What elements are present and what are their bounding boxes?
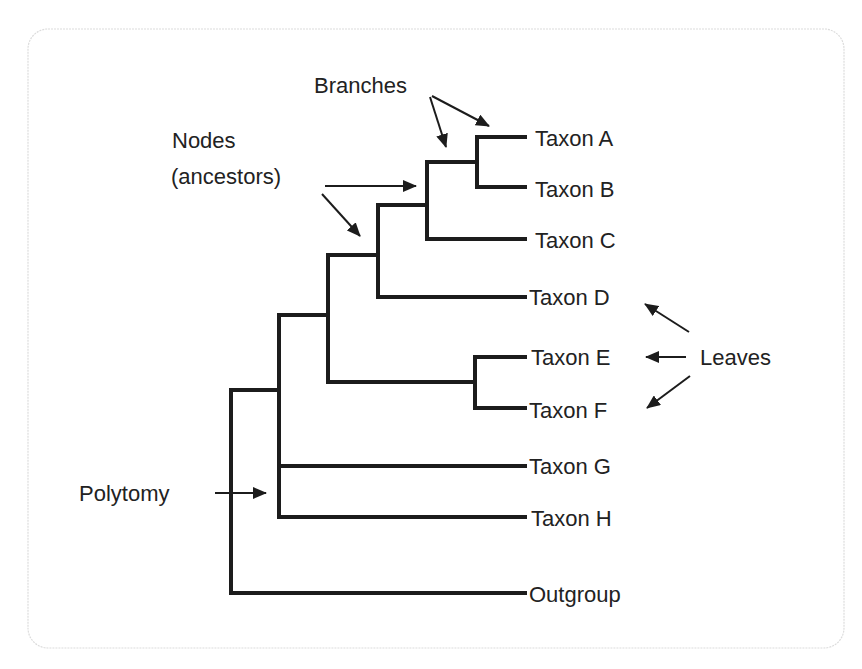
taxon-label-outgroup: Outgroup: [529, 582, 621, 607]
phylogenetic-tree-diagram: Taxon A Taxon B Taxon C Taxon D Taxon E …: [0, 0, 862, 669]
branches-label: Branches: [314, 73, 407, 98]
taxon-label-a: Taxon A: [535, 126, 614, 151]
taxon-label-d: Taxon D: [529, 285, 610, 310]
taxon-label-g: Taxon G: [529, 454, 611, 479]
ancestors-label: (ancestors): [171, 164, 281, 189]
taxon-label-f: Taxon F: [529, 398, 607, 423]
taxon-label-e: Taxon E: [531, 345, 611, 370]
nodes-label: Nodes: [172, 128, 236, 153]
leaves-label: Leaves: [700, 345, 771, 370]
diagram-card-border: [28, 29, 844, 648]
taxon-label-h: Taxon H: [531, 506, 612, 531]
taxon-label-c: Taxon C: [535, 228, 616, 253]
polytomy-label: Polytomy: [79, 481, 169, 506]
taxon-label-b: Taxon B: [535, 177, 615, 202]
